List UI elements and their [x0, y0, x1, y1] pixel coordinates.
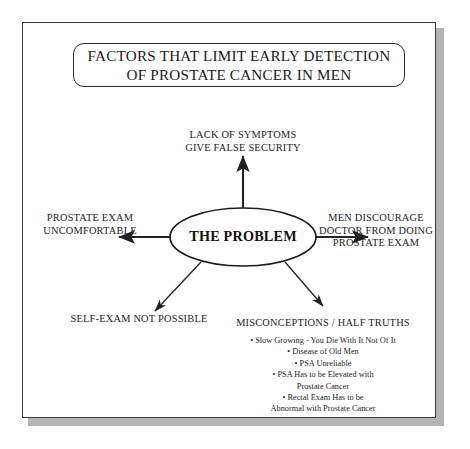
- list-item: • Rectal Exam Has to be Abnormal with Pr…: [223, 392, 423, 415]
- branch-label-bottom-left: SELF-EXAM NOT POSSIBLE: [59, 313, 219, 326]
- poster-frame: FACTORS THAT LIMIT EARLY DETECTION OF PR…: [22, 22, 436, 418]
- poster-page: FACTORS THAT LIMIT EARLY DETECTION OF PR…: [0, 0, 470, 449]
- list-item: • Slow Growing - You Die With It Not Of …: [223, 335, 423, 346]
- branch-bottom-left-line-1: SELF-EXAM NOT POSSIBLE: [59, 313, 219, 326]
- list-item: • PSA Unreliable: [223, 358, 423, 369]
- branch-right-line-2: DOCTOR FROM DOING: [315, 225, 437, 238]
- misconceptions-heading: MISCONCEPTIONS / HALF TRUTHS: [223, 317, 423, 328]
- list-item: • PSA Has to be Elevated with Prostate C…: [223, 369, 423, 392]
- branch-label-right: MEN DISCOURAGE DOCTOR FROM DOING PROSTAT…: [315, 212, 437, 250]
- branch-top-line-1: LACK OF SYMPTOMS: [163, 129, 323, 142]
- branch-top-line-2: GIVE FALSE SECURITY: [163, 142, 323, 155]
- misconception-text: • PSA Has to be Elevated with: [272, 370, 373, 379]
- branch-label-left: PROSTATE EXAM UNCOMFORTABLE: [31, 212, 149, 237]
- misconceptions-list: • Slow Growing - You Die With It Not Of …: [223, 335, 423, 415]
- misconception-text: • Disease of Old Men: [287, 347, 359, 356]
- center-node-label: THE PROBLEM: [171, 228, 315, 245]
- misconception-text-continued: Abnormal with Prostate Cancer: [223, 403, 423, 414]
- branch-right-line-1: MEN DISCOURAGE: [315, 212, 437, 225]
- misconception-text-continued: Prostate Cancer: [223, 381, 423, 392]
- arrow-down-right: [285, 262, 323, 306]
- misconception-text: • Rectal Exam Has to be: [282, 393, 363, 402]
- branch-left-line-1: PROSTATE EXAM: [31, 212, 149, 225]
- branch-right-line-3: PROSTATE EXAM: [315, 237, 437, 250]
- branch-label-top: LACK OF SYMPTOMS GIVE FALSE SECURITY: [163, 129, 323, 154]
- misconception-text: • PSA Unreliable: [295, 359, 352, 368]
- misconception-text: • Slow Growing - You Die With It Not Of …: [250, 336, 396, 345]
- branch-label-bottom-right: MISCONCEPTIONS / HALF TRUTHS • Slow Grow…: [223, 317, 423, 415]
- arrow-down-left: [155, 262, 201, 311]
- branch-left-line-2: UNCOMFORTABLE: [31, 225, 149, 238]
- list-item: • Disease of Old Men: [223, 346, 423, 357]
